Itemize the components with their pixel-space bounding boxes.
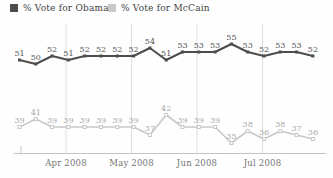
mccain-point-label: 39 xyxy=(194,116,204,125)
obama-point-label: 52 xyxy=(259,45,269,54)
mccain-point-label: 37 xyxy=(292,124,302,133)
x-axis-label-0: Apr 2008 xyxy=(44,158,87,168)
obama-data-point xyxy=(116,55,119,58)
obama-point-label: 52 xyxy=(308,45,318,54)
obama-data-point xyxy=(279,51,282,54)
mccain-data-point xyxy=(246,130,249,133)
obama-point-label: 54 xyxy=(145,37,155,46)
mccain-point-label: 38 xyxy=(275,120,285,129)
mccain-data-point xyxy=(165,114,168,117)
mccain-point-label: 35 xyxy=(226,132,236,141)
obama-data-point xyxy=(311,55,314,58)
x-axis-label-1: May 2008 xyxy=(109,158,154,168)
mccain-point-label: 39 xyxy=(210,116,220,125)
mccain-data-point xyxy=(197,126,200,129)
mccain-point-label: 36 xyxy=(308,128,318,137)
poll-trend-chart: % Vote for Obama % Vote for McCain Apr 2… xyxy=(0,0,333,178)
mccain-point-label: 39 xyxy=(177,116,187,125)
mccain-data-point xyxy=(311,138,314,141)
mccain-data-point xyxy=(51,126,54,129)
mccain-data-point xyxy=(34,118,37,121)
x-axis-label-3: Jul 2008 xyxy=(243,158,282,168)
mccain-point-label: 39 xyxy=(129,116,139,125)
mccain-point-label: 39 xyxy=(80,116,90,125)
obama-point-label: 52 xyxy=(112,45,122,54)
mccain-data-point xyxy=(83,126,86,129)
mccain-point-label: 39 xyxy=(63,116,73,125)
obama-point-label: 50 xyxy=(31,53,41,62)
obama-point-label: 53 xyxy=(243,41,253,50)
obama-data-point xyxy=(100,55,103,58)
x-axis-label-2: Jun 2008 xyxy=(176,158,217,168)
line-chart-canvas: Apr 2008May 2008Jun 2008Jul 200851505251… xyxy=(0,0,333,178)
mccain-point-label: 39 xyxy=(14,116,24,125)
obama-data-point xyxy=(67,59,70,62)
obama-point-label: 52 xyxy=(96,45,106,54)
obama-data-point xyxy=(34,63,37,66)
mccain-data-point xyxy=(230,142,233,145)
mccain-data-point xyxy=(295,134,298,137)
obama-data-point xyxy=(197,51,200,54)
mccain-point-label: 37 xyxy=(145,124,155,133)
obama-point-label: 52 xyxy=(129,45,139,54)
obama-data-point xyxy=(51,55,54,58)
obama-point-label: 52 xyxy=(80,45,90,54)
mccain-point-label: 39 xyxy=(47,116,57,125)
obama-point-label: 53 xyxy=(210,41,220,50)
mccain-data-point xyxy=(214,126,217,129)
obama-point-label: 51 xyxy=(161,49,171,58)
obama-data-point xyxy=(148,47,151,50)
obama-data-point xyxy=(83,55,86,58)
obama-data-point xyxy=(263,55,266,58)
mccain-data-point xyxy=(100,126,103,129)
mccain-data-point xyxy=(181,126,184,129)
mccain-point-label: 41 xyxy=(31,108,41,117)
obama-data-point xyxy=(165,59,168,62)
obama-data-point xyxy=(246,51,249,54)
obama-point-label: 53 xyxy=(177,41,187,50)
mccain-point-label: 36 xyxy=(259,128,269,137)
mccain-point-label: 38 xyxy=(243,120,253,129)
mccain-data-point xyxy=(263,138,266,141)
obama-data-point xyxy=(295,51,298,54)
obama-point-label: 52 xyxy=(47,45,57,54)
obama-point-label: 53 xyxy=(275,41,285,50)
mccain-data-point xyxy=(148,134,151,137)
mccain-point-label: 42 xyxy=(161,104,171,113)
obama-data-point xyxy=(132,55,135,58)
mccain-data-point xyxy=(132,126,135,129)
obama-point-label: 51 xyxy=(63,49,73,58)
mccain-point-label: 39 xyxy=(112,116,122,125)
mccain-data-point xyxy=(18,126,21,129)
obama-point-label: 53 xyxy=(194,41,204,50)
obama-data-point xyxy=(230,43,233,46)
obama-point-label: 55 xyxy=(226,33,236,42)
obama-point-label: 51 xyxy=(14,49,24,58)
obama-data-point xyxy=(181,51,184,54)
obama-data-point xyxy=(214,51,217,54)
obama-data-point xyxy=(18,59,21,62)
mccain-data-point xyxy=(279,130,282,133)
mccain-data-point xyxy=(116,126,119,129)
mccain-data-point xyxy=(67,126,70,129)
obama-point-label: 53 xyxy=(292,41,302,50)
mccain-point-label: 39 xyxy=(96,116,106,125)
